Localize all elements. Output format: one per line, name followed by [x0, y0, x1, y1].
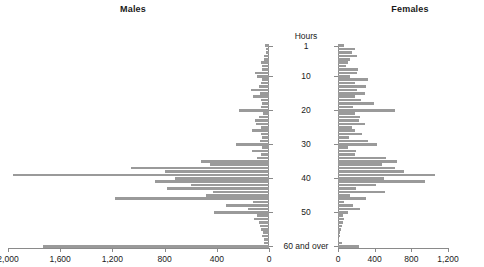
bar	[266, 48, 269, 51]
bar	[338, 116, 360, 119]
x-tick	[8, 248, 9, 252]
bar	[338, 197, 366, 200]
bar	[264, 238, 269, 241]
x-tick-label: 1,600	[50, 254, 71, 264]
y-tick	[334, 212, 338, 213]
bar	[167, 187, 269, 190]
bar	[257, 75, 269, 78]
bar	[338, 89, 357, 92]
bar	[263, 231, 269, 234]
bar	[262, 146, 269, 149]
bar	[261, 82, 269, 85]
bar	[338, 242, 342, 245]
bar	[257, 157, 269, 160]
bar	[338, 109, 395, 112]
bar	[261, 126, 269, 129]
bar	[261, 133, 269, 136]
bar	[338, 170, 404, 173]
bar	[261, 228, 269, 231]
bar	[338, 92, 365, 95]
bar	[338, 85, 366, 88]
bar	[338, 160, 397, 163]
y-tick	[334, 76, 338, 77]
y-tick	[269, 76, 273, 77]
bar	[338, 68, 358, 71]
hours-axis-heading: Hours	[295, 31, 318, 41]
bar	[338, 72, 357, 75]
bar	[261, 153, 269, 156]
bar	[13, 174, 269, 177]
bar	[252, 129, 269, 132]
bar	[338, 204, 353, 207]
females-plot-area	[338, 44, 448, 248]
x-tick-label: 0	[267, 254, 272, 264]
bar	[264, 58, 269, 61]
x-tick-label: 2,000	[0, 254, 19, 264]
bar	[338, 126, 352, 129]
bar	[155, 180, 269, 183]
bar	[338, 75, 350, 78]
bar	[338, 129, 355, 132]
bar	[262, 68, 269, 71]
hours-tick-label: 1	[304, 41, 309, 51]
bar	[338, 228, 341, 231]
x-tick	[448, 248, 449, 252]
females-panel-title: Females	[391, 4, 428, 14]
bar	[213, 191, 269, 194]
bar	[165, 170, 269, 173]
bar	[257, 214, 269, 217]
bar	[338, 208, 360, 211]
x-tick	[217, 248, 218, 252]
males-panel-title: Males	[120, 4, 146, 14]
bar	[214, 211, 269, 214]
bar	[338, 153, 355, 156]
y-tick	[269, 110, 273, 111]
x-tick-label: 800	[158, 254, 172, 264]
x-tick	[338, 248, 339, 252]
bar	[261, 106, 269, 109]
x-tick-label: 800	[404, 254, 418, 264]
bar	[338, 221, 343, 224]
bar	[255, 72, 269, 75]
x-tick-label: 0	[336, 254, 341, 264]
y-tick	[334, 144, 338, 145]
bar	[338, 61, 348, 64]
bar	[338, 184, 376, 187]
bar	[338, 194, 350, 197]
bar	[201, 160, 269, 163]
bar	[338, 187, 356, 190]
bar	[256, 123, 269, 126]
hours-tick-label: 10	[301, 71, 310, 81]
bar	[338, 99, 361, 102]
bar	[338, 231, 340, 234]
bar	[338, 235, 340, 238]
bar	[338, 119, 359, 122]
bar	[338, 238, 339, 241]
y-tick	[334, 110, 338, 111]
bar	[260, 92, 269, 95]
y-tick	[269, 144, 273, 145]
bar	[261, 99, 269, 102]
x-tick	[375, 248, 376, 252]
bar	[239, 109, 269, 112]
bar	[259, 221, 269, 224]
bar	[264, 242, 269, 245]
hours-tick-label: 20	[301, 105, 310, 115]
bar	[338, 95, 355, 98]
x-tick	[269, 248, 270, 252]
bar	[338, 55, 357, 58]
bar	[252, 150, 269, 153]
bar	[254, 218, 269, 221]
bar	[264, 55, 269, 58]
bar	[338, 112, 355, 115]
chart-canvas: Males Females Hours 1102030405060 and ov…	[0, 0, 484, 267]
y-tick	[269, 46, 273, 47]
bar	[338, 51, 352, 54]
bar	[260, 225, 269, 228]
bar	[338, 146, 348, 149]
bar	[338, 140, 368, 143]
bar	[338, 150, 356, 153]
bar	[259, 116, 269, 119]
x-tick-label: 1,200	[437, 254, 458, 264]
bar	[191, 184, 269, 187]
